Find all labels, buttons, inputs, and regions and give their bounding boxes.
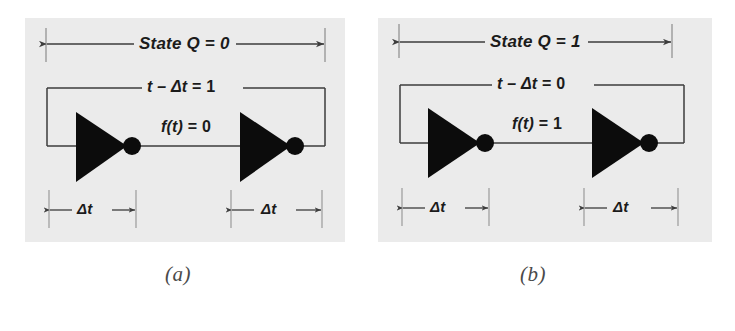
panel-b-delay-right-text: Δt: [613, 198, 628, 215]
panel-b-state-label: State Q = 1: [490, 32, 581, 52]
panel-a-state-label: State Q = 0: [139, 34, 230, 54]
panel-a-loop-label-value: = 1: [187, 78, 215, 95]
panel-b-delay-right-label: Δt: [613, 198, 628, 215]
panel-a-loop-label: t – Δt = 1: [147, 78, 215, 96]
panel-b-loop-label: t – Δt = 0: [497, 75, 565, 93]
panel-a-signal-label-value: = 0: [183, 118, 211, 135]
panel-a-caption: (a): [118, 262, 238, 287]
panel-a-signal-label-symbol: f(t): [161, 118, 183, 135]
panel-b-signal-label: f(t) = 1: [512, 115, 562, 133]
panel-b-delay-left-label: Δt: [430, 198, 445, 215]
panel-container: [0, 0, 735, 331]
panel-a-delay-left-text: Δt: [77, 200, 92, 217]
panel-a-delay-left-label: Δt: [77, 200, 92, 217]
panel-b-delay-left-text: Δt: [430, 198, 445, 215]
panel-b-caption: (b): [473, 262, 593, 287]
panel-a-delay-right-text: Δt: [261, 200, 276, 217]
panel-b-signal-label-symbol: f(t): [512, 115, 534, 132]
panel-b-loop-label-value: = 0: [537, 75, 565, 92]
panel-b-signal-label-value: = 1: [534, 115, 562, 132]
panel-a-signal-label: f(t) = 0: [161, 118, 211, 136]
panel-a-delay-right-label: Δt: [261, 200, 276, 217]
figure-root: State Q = 0 t – Δt = 1 f(t) = 0 Δt Δt St…: [0, 0, 735, 331]
panel-b-loop-label-symbol: t – Δt: [497, 75, 537, 92]
panel-a-loop-label-symbol: t – Δt: [147, 78, 187, 95]
